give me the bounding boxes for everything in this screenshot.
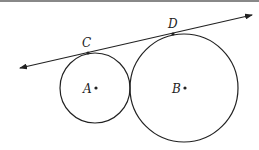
label-a: A [82,82,92,96]
label-b: B [171,82,181,96]
point-b-dot [183,86,186,89]
point-c-dot [86,51,89,54]
tangent-line [20,15,252,68]
point-d-dot [171,32,174,35]
point-a-dot [94,86,97,89]
geometry-figure: C D A B [0,0,259,150]
diagram: C D A B [0,0,259,150]
label-d: D [167,17,178,31]
label-c: C [82,36,91,50]
